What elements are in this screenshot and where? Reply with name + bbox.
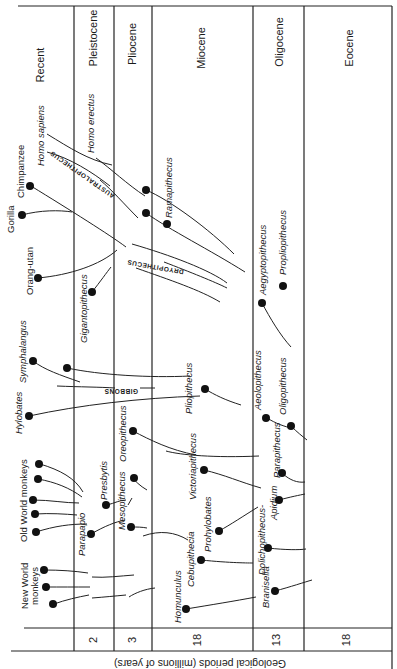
label-parapapio: Parapapio (76, 513, 87, 556)
dot-cebupithecia (197, 556, 205, 564)
duration-eocene: 18 (340, 634, 352, 646)
dot-chimpanzee (26, 182, 34, 190)
dot-oligopithecus (287, 422, 295, 430)
dot-dolichopithecus (264, 544, 272, 552)
dot-old-world-3 (29, 496, 37, 504)
caption-gibbons: GIBBONS (104, 388, 138, 395)
label-chimpanzee: Chimpanzee (15, 145, 26, 198)
dot-old-world-4 (31, 510, 39, 518)
label-aegyptopithecus: Aegyptopithecus (257, 225, 268, 296)
duration-pleistocene: 2 (87, 637, 99, 643)
dot-parapithecus (278, 469, 286, 477)
dot-mesopithecus (130, 474, 138, 482)
label-dolichopithecus: Dolichopithecus- (256, 505, 267, 575)
duration-miocene: 18 (191, 634, 203, 646)
epoch-eocene: Eocene (343, 29, 355, 66)
label-hylobates: Hylobates (13, 392, 24, 434)
dot-prohylobates (215, 527, 223, 535)
dot-aegyptopithecus (258, 299, 266, 307)
label-propliopithecus: Propliopithecus (277, 210, 288, 275)
dot-symphalangus (29, 357, 37, 365)
axis-title: Geological periods (millions of years) (114, 658, 286, 669)
label-presbytis: Presbytis (98, 461, 109, 500)
duration-oligocene: 13 (270, 634, 282, 646)
chart-frame (11, 6, 392, 669)
label-aeolopithecus: Aeolopithecus (252, 350, 263, 411)
epoch-pleistocene: Pleistocene (87, 10, 99, 67)
dot-victoriapithecus (200, 466, 208, 474)
dot-old-world-2 (34, 475, 42, 483)
dot-presbytis (102, 501, 110, 509)
dot-orang-utan (34, 274, 42, 282)
primate-evolution-diagram: Recent Pleistocene Pliocene Miocene Olig… (0, 0, 397, 669)
dot-gorilla (18, 211, 26, 219)
label-cebupithecia: Cebupithecia (185, 532, 196, 587)
dot-old-world-5 (32, 528, 40, 536)
dot-new-world-2 (42, 583, 50, 591)
label-old-world-monkeys: Old World monkeys (18, 459, 29, 542)
dot-ramapithecus-upper (142, 186, 150, 194)
label-homo-erectus: Homo erectus (85, 94, 96, 153)
label-gorilla: Gorilla (5, 205, 16, 233)
dot-branisella (271, 587, 279, 595)
dot-aeolopithecus (262, 414, 270, 422)
epoch-miocene: Miocene (195, 27, 207, 69)
label-oligopithecus: Oligopithecus (277, 357, 288, 415)
dot-apidium (275, 496, 283, 504)
dot-new-world-3 (49, 600, 57, 608)
label-homo-sapiens: Homo sapiens (35, 105, 46, 166)
dot-pliopithecus (201, 385, 209, 393)
dot-gigantopithecus (88, 288, 96, 296)
epoch-recent: Recent (34, 48, 46, 83)
dot-homunculus (182, 605, 190, 613)
label-homunculus: Homunculus (172, 570, 183, 623)
dot-gibbon-fossil (63, 364, 71, 372)
label-symphalangus: Symphalangus (17, 320, 28, 383)
label-prohylobates: Prohylobates (202, 496, 213, 552)
caption-australopithecus: AUSTRALOPITHECUS (48, 150, 115, 200)
label-branisella: Branisella (260, 566, 271, 608)
label-pliopithecus: Pliopithecus (183, 363, 194, 414)
dot-old-world-1 (35, 460, 43, 468)
label-victoriapithecus: Victoriapithecus (187, 433, 198, 500)
label-oreopithecus: Oreopithecus (117, 405, 128, 462)
dot-ramapithecus (163, 220, 171, 228)
dot-parapapio (87, 530, 95, 538)
label-orang-utan: Orang-utan (24, 247, 35, 295)
epoch-oligocene: Oligocene (273, 17, 285, 67)
dot-oreopithecus (129, 427, 137, 435)
dot-ramapithecus-lower (142, 209, 150, 217)
duration-pliocene: 3 (126, 637, 138, 643)
label-gigantopithecus: Gigantopithecus (78, 274, 89, 343)
epoch-pliocene: Pliocene (126, 23, 138, 65)
label-new-world-line2: monkeys (29, 567, 40, 605)
dot-hylobates (25, 412, 33, 420)
label-ramapithecus: Ramapithecus (163, 157, 174, 218)
caption-dryopithecus: DRYOPITHECUS (126, 259, 184, 276)
dot-propliopithecus (279, 282, 287, 290)
dot-new-world-1 (40, 566, 48, 574)
dot-mesopithecus-2 (127, 523, 135, 531)
